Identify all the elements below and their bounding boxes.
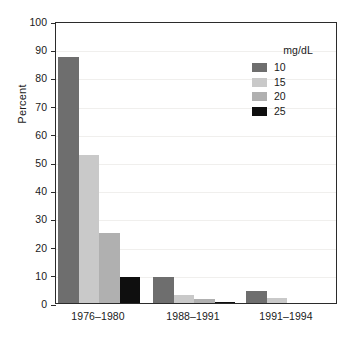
y-axis-tick-label: 90: [35, 44, 47, 56]
legend-swatch: [252, 63, 267, 72]
bar[interactable]: [174, 295, 195, 303]
bar[interactable]: [215, 302, 236, 303]
legend-entry-label: 15: [274, 77, 286, 88]
legend-entries: 10152025: [252, 61, 328, 118]
y-axis-tick-label: 30: [35, 213, 47, 225]
legend-entry[interactable]: 20: [252, 90, 328, 103]
y-axis-title: Percent: [16, 44, 28, 164]
bar[interactable]: [267, 298, 288, 303]
bar[interactable]: [79, 155, 100, 303]
bar[interactable]: [58, 57, 79, 303]
x-axis-tick-label: 1976–1980: [58, 310, 138, 322]
legend-title: mg/dL: [268, 44, 328, 56]
y-axis-tick-label: 80: [35, 72, 47, 84]
legend-swatch: [252, 107, 267, 116]
bar-group: [58, 23, 140, 303]
bar-group: [153, 23, 235, 303]
legend-entry[interactable]: 15: [252, 76, 328, 89]
legend-entry-label: 25: [274, 106, 286, 117]
y-axis-tick-label: 60: [35, 129, 47, 141]
y-axis-tick-label: 40: [35, 185, 47, 197]
bar[interactable]: [194, 299, 215, 303]
y-axis-tick-mark: [51, 305, 56, 306]
x-axis-tick-label: 1988–1991: [153, 310, 233, 322]
bar[interactable]: [120, 277, 141, 303]
legend-swatch: [252, 92, 267, 101]
bar-chart-figure: Percent 0102030405060708090100 1976–1980…: [0, 0, 353, 338]
legend: mg/dL 10152025: [252, 44, 328, 119]
x-axis-tick-label: 1991–1994: [246, 310, 326, 322]
y-axis-tick-label: 50: [35, 157, 47, 169]
y-axis-tick-label: 0: [41, 298, 47, 310]
y-axis-tick-label: 10: [35, 270, 47, 282]
bar[interactable]: [153, 277, 174, 303]
y-axis-tick-label: 70: [35, 101, 47, 113]
legend-entry-label: 20: [274, 91, 286, 102]
y-axis-tick-label: 100: [29, 16, 47, 28]
legend-entry[interactable]: 25: [252, 105, 328, 118]
legend-entry-label: 10: [274, 62, 286, 73]
legend-entry[interactable]: 10: [252, 61, 328, 74]
bar[interactable]: [99, 233, 120, 304]
bar[interactable]: [246, 291, 267, 303]
legend-swatch: [252, 78, 267, 87]
y-axis-tick-label: 20: [35, 242, 47, 254]
